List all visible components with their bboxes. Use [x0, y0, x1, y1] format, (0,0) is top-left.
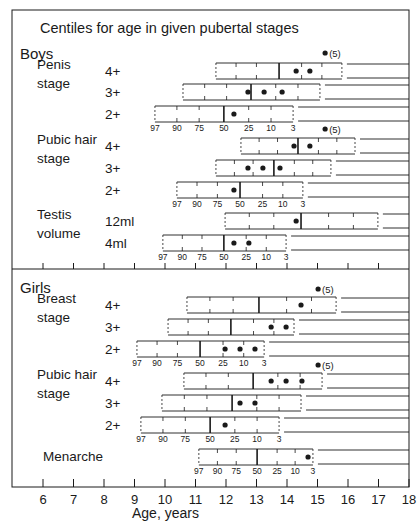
data-point: [277, 165, 282, 170]
outlier-point: [323, 50, 328, 55]
data-point: [283, 324, 288, 329]
data-point: [245, 89, 250, 94]
centile-row: 9790755025103: [194, 449, 409, 476]
data-point: [269, 324, 274, 329]
centile-label: 75: [197, 252, 207, 262]
centile-label: 50: [235, 199, 245, 209]
centile-label: 25: [258, 199, 268, 209]
centile-label: 10: [278, 199, 288, 209]
data-point: [262, 89, 267, 94]
data-point: [294, 68, 299, 73]
data-point: [246, 240, 251, 245]
centile-label: 90: [172, 123, 182, 133]
centile-row: 4+(5): [105, 284, 409, 314]
data-point: [237, 346, 242, 351]
x-tick-label: 12: [219, 492, 233, 507]
stage-label: 4+: [105, 374, 121, 389]
centile-row: 2+9790755025103: [105, 106, 409, 133]
centile-row: 3+: [105, 160, 409, 176]
centile-row: 2+9790755025103: [105, 182, 409, 209]
centile-label: 10: [239, 358, 249, 368]
x-tick-label: 15: [310, 492, 324, 507]
data-point: [245, 165, 250, 170]
centile-row: 12ml: [105, 213, 409, 229]
stage-label: 3+: [105, 85, 121, 100]
chart-frame: [12, 10, 409, 487]
centile-label: 10: [290, 466, 300, 476]
centile-label: 75: [181, 434, 191, 444]
data-point: [231, 111, 236, 116]
centile-row: 4ml9790755025103: [105, 235, 409, 262]
data-point: [260, 165, 265, 170]
centile-label: 75: [231, 466, 241, 476]
stage-label: 2+: [105, 342, 121, 357]
x-axis-label: Age, years: [132, 505, 199, 521]
outlier-label: (5): [329, 124, 341, 135]
data-point: [237, 400, 242, 405]
data-point: [307, 68, 312, 73]
centile-label: 25: [244, 123, 254, 133]
centile-label: 97: [150, 123, 160, 133]
centile-label: 25: [241, 252, 251, 262]
centile-label: 90: [213, 466, 223, 476]
centile-row: 2+9790755025103: [105, 341, 409, 368]
centile-row: 3+: [105, 395, 409, 411]
centile-label: 90: [158, 434, 168, 444]
centile-label: 50: [252, 466, 262, 476]
x-tick-label: 7: [70, 492, 77, 507]
stage-label: 2+: [105, 107, 121, 122]
data-point: [298, 302, 303, 307]
centile-label: 97: [194, 466, 204, 476]
centile-label: 3: [284, 252, 289, 262]
centile-label: 25: [272, 466, 282, 476]
stage-label: 3+: [105, 161, 121, 176]
outlier-point: [316, 286, 321, 291]
stage-label: 3+: [105, 320, 121, 335]
centile-label: 97: [136, 434, 146, 444]
outlier-label: (5): [329, 48, 341, 59]
x-tick-label: 16: [341, 492, 355, 507]
x-tick-label: 17: [371, 492, 385, 507]
stage-label: 2+: [105, 183, 121, 198]
data-point: [305, 454, 310, 459]
x-tick-label: 14: [280, 492, 294, 507]
x-tick-label: 8: [100, 492, 107, 507]
group-label: Pubic hair: [37, 367, 98, 382]
chart-rows: PenisstagePubic hairstageTestisvolume4+(…: [37, 48, 409, 477]
centile-row: 4+(5): [105, 360, 409, 390]
group-label: Menarche: [43, 449, 103, 464]
pubertal-centiles-chart: Centiles for age in given pubertal stage…: [0, 0, 419, 528]
group-label: stage: [37, 310, 70, 325]
centile-label: 25: [230, 434, 240, 444]
group-label: stage: [37, 76, 70, 91]
data-point: [222, 346, 227, 351]
outlier-label: (5): [322, 360, 334, 371]
outlier-point: [316, 362, 321, 367]
centile-label: 10: [266, 123, 276, 133]
group-label: stage: [37, 151, 70, 166]
centile-label: 75: [213, 199, 223, 209]
centile-label: 3: [262, 358, 267, 368]
centile-label: 50: [219, 252, 229, 262]
centile-label: 3: [311, 466, 316, 476]
centile-label: 3: [277, 434, 282, 444]
centile-label: 10: [262, 252, 272, 262]
group-label: Breast: [37, 291, 76, 306]
data-point: [307, 143, 312, 148]
centile-row: 3+: [105, 319, 409, 335]
group-label: volume: [37, 226, 81, 241]
stage-label: 4+: [105, 139, 121, 154]
data-point: [231, 240, 236, 245]
data-point: [252, 400, 257, 405]
data-point: [280, 89, 285, 94]
centile-label: 3: [300, 199, 305, 209]
centile-row: 4+(5): [105, 48, 409, 80]
stage-label: 4+: [105, 298, 121, 313]
centile-row: 3+: [105, 84, 409, 100]
centile-label: 97: [172, 199, 182, 209]
group-label: Testis: [37, 207, 72, 222]
x-tick-label: 13: [249, 492, 263, 507]
stage-label: 4ml: [105, 236, 127, 251]
outlier-point: [323, 126, 328, 131]
group-label: stage: [37, 386, 70, 401]
